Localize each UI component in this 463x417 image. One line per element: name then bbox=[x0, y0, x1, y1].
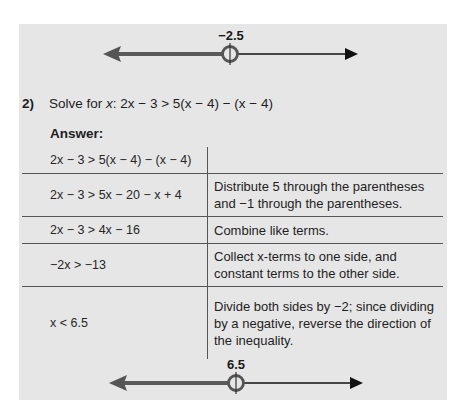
problem-variable: x bbox=[106, 96, 113, 111]
step-explanation: Combine like terms. bbox=[208, 217, 443, 243]
step-explanation: Collect x-terms to one side, and constan… bbox=[208, 244, 443, 286]
answer-label: Answer: bbox=[50, 126, 103, 141]
right-arrow-icon bbox=[350, 377, 363, 389]
step-row: 2x − 3 > 5(x − 4) − (x − 4) bbox=[22, 147, 443, 174]
step-explanation: Distribute 5 through the parentheses and… bbox=[208, 174, 443, 216]
step-row: −2x > −13 Collect x-terms to one side, a… bbox=[22, 244, 443, 287]
number-line-top-graphic bbox=[0, 30, 463, 78]
number-line-top: −2.5 bbox=[0, 30, 463, 78]
number-line-bottom-graphic bbox=[0, 359, 463, 407]
step-equation: 2x − 3 > 5x − 20 − x + 4 bbox=[22, 174, 208, 216]
step-equation: 2x − 3 > 5(x − 4) − (x − 4) bbox=[22, 147, 208, 173]
problem-number: 2) bbox=[22, 96, 49, 111]
problem-prompt-suffix: : 2x − 3 > 5(x − 4) − (x − 4) bbox=[113, 96, 273, 111]
step-explanation: Divide both sides by −2; since dividing … bbox=[208, 287, 443, 359]
problem-prompt-prefix: Solve for bbox=[49, 96, 106, 111]
step-equation: 2x − 3 > 4x − 16 bbox=[22, 217, 208, 243]
step-explanation bbox=[208, 147, 443, 173]
step-row: 2x − 3 > 4x − 16 Combine like terms. bbox=[22, 217, 443, 244]
step-row: 2x − 3 > 5x − 20 − x + 4 Distribute 5 th… bbox=[22, 174, 443, 217]
problem-statement: 2)Solve for x: 2x − 3 > 5(x − 4) − (x − … bbox=[22, 96, 273, 111]
step-equation: −2x > −13 bbox=[22, 244, 208, 286]
step-equation: x < 6.5 bbox=[22, 287, 208, 359]
right-arrow-icon bbox=[345, 48, 358, 60]
step-row: x < 6.5 Divide both sides by −2; since d… bbox=[22, 287, 443, 359]
solution-steps-table: 2x − 3 > 5(x − 4) − (x − 4) 2x − 3 > 5x … bbox=[22, 147, 443, 359]
number-line-bottom: 6.5 bbox=[0, 359, 463, 407]
